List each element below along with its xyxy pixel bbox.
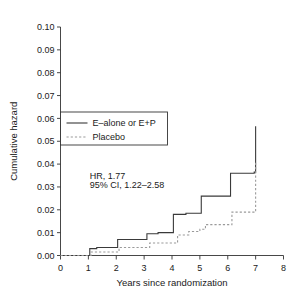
y-axis-tick-label: 0.10	[37, 22, 55, 32]
y-axis-tick-label: 0.00	[37, 251, 55, 261]
cumulative-hazard-chart: 0.000.010.020.030.040.050.060.070.080.09…	[0, 0, 297, 299]
legend-label-1: E–alone or E+P	[93, 118, 156, 128]
chart-canvas: 0.000.010.020.030.040.050.060.070.080.09…	[0, 0, 297, 299]
y-axis-tick-label: 0.09	[37, 45, 55, 55]
x-axis-tick-label: 7	[253, 263, 258, 273]
x-axis-title: Years since randomization	[116, 277, 227, 288]
y-axis-tick-label: 0.02	[37, 205, 55, 215]
y-axis-tick-label: 0.04	[37, 159, 55, 169]
y-axis-tick-label: 0.07	[37, 91, 55, 101]
y-axis-title: Cumulative hazard	[8, 102, 19, 181]
series-line-1	[61, 126, 256, 255]
x-axis-tick-label: 6	[225, 263, 230, 273]
legend-label-2: Placebo	[93, 132, 126, 142]
x-axis-tick-label: 3	[142, 263, 147, 273]
x-axis-tick-label: 1	[86, 263, 91, 273]
x-axis-tick-label: 2	[114, 263, 119, 273]
y-axis-tick-label: 0.05	[37, 136, 55, 146]
chart-annotation-2: 95% CI, 1.22–2.58	[90, 180, 165, 190]
x-axis-tick-label: 0	[58, 263, 63, 273]
y-axis-tick-label: 0.03	[37, 182, 55, 192]
y-axis-tick-label: 0.06	[37, 114, 55, 124]
x-axis-tick-label: 8	[281, 263, 286, 273]
y-axis-tick-label: 0.08	[37, 68, 55, 78]
x-axis-tick-label: 4	[169, 263, 174, 273]
y-axis-tick-label: 0.01	[37, 228, 55, 238]
x-axis-tick-label: 5	[197, 263, 202, 273]
